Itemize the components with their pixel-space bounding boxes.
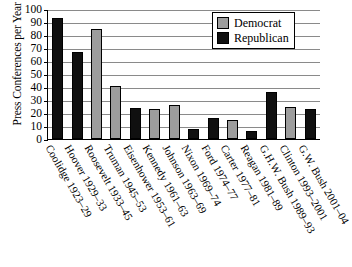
y-tick-label: 100 xyxy=(25,4,42,16)
legend-swatch-democrat-icon xyxy=(217,17,229,29)
bar-republican xyxy=(305,109,316,139)
bar-democrat xyxy=(169,105,180,139)
bar-republican xyxy=(72,52,83,139)
y-tick-label: 20 xyxy=(31,108,43,120)
y-tick-label: 10 xyxy=(31,121,43,133)
bar-democrat xyxy=(149,109,160,139)
bar-slot xyxy=(48,10,67,139)
y-tick-label: 60 xyxy=(31,56,43,68)
bar-republican xyxy=(266,92,277,139)
bar-slot xyxy=(126,10,145,139)
bar-republican xyxy=(208,118,219,139)
legend-item-republican: Republican xyxy=(217,30,289,45)
bar-slot xyxy=(67,10,86,139)
bar-slot xyxy=(145,10,164,139)
bar-democrat xyxy=(110,86,121,139)
bar-democrat xyxy=(91,29,102,140)
bar-slot xyxy=(300,10,319,139)
y-tick-mark xyxy=(44,140,48,141)
bar-republican xyxy=(188,129,199,139)
x-axis-labels: Coolidge 1923–29Hoover 1929–33Roosevelt … xyxy=(47,143,320,263)
bar-democrat xyxy=(285,107,296,140)
y-tick-label: 70 xyxy=(31,43,43,55)
chart-legend: Democrat Republican xyxy=(212,12,295,49)
bar-republican xyxy=(246,131,257,139)
legend-item-democrat: Democrat xyxy=(217,15,289,30)
bar-slot xyxy=(87,10,106,139)
legend-swatch-republican-icon xyxy=(217,32,229,44)
bar-republican xyxy=(130,108,141,139)
y-tick-label: 90 xyxy=(31,17,43,29)
bar-democrat xyxy=(227,120,238,140)
bar-slot xyxy=(165,10,184,139)
bar-slot xyxy=(106,10,125,139)
y-tick-label: 30 xyxy=(31,95,43,107)
y-tick-label: 0 xyxy=(36,134,42,146)
y-tick-label: 40 xyxy=(31,82,43,94)
legend-label-democrat: Democrat xyxy=(234,17,281,29)
legend-label-republican: Republican xyxy=(234,32,289,44)
y-axis-title: Press Conferences per Year xyxy=(12,0,24,139)
y-tick-label: 50 xyxy=(31,69,43,81)
bar-slot xyxy=(184,10,203,139)
y-tick-label: 80 xyxy=(31,30,43,42)
bar-republican xyxy=(52,18,63,139)
